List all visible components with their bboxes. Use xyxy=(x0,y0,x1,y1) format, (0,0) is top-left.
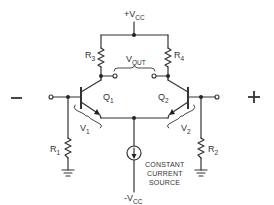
svg-text:CURRENT: CURRENT xyxy=(147,170,183,177)
vout-terminal-left xyxy=(113,74,117,78)
input-terminal-right xyxy=(215,95,219,99)
svg-text:R3: R3 xyxy=(85,50,96,62)
vcc-top-main: +V xyxy=(124,9,135,19)
v1-annotation: V1 xyxy=(74,105,101,135)
resistor-r4: R4 xyxy=(165,35,185,78)
svg-text:V1: V1 xyxy=(80,123,90,135)
svg-text:VOUT: VOUT xyxy=(126,54,146,66)
constant-current-source: CONSTANT CURRENT SOURCE xyxy=(127,118,185,192)
arrow-down-icon xyxy=(132,154,137,159)
svg-text:SOURCE: SOURCE xyxy=(149,179,180,186)
resistor-r2: R2 xyxy=(195,138,219,176)
differential-amplifier-schematic: +VCC R3 R4 VOUT Q1 xyxy=(0,0,274,205)
output-terminals: VOUT xyxy=(99,54,170,78)
vcc-top-sub: CC xyxy=(135,14,145,21)
inverting-input xyxy=(11,95,81,138)
svg-text:Q1: Q1 xyxy=(103,92,114,104)
junction-dot xyxy=(132,33,136,37)
svg-text:-VCC: -VCC xyxy=(124,193,143,205)
svg-text:V2: V2 xyxy=(181,123,191,135)
v2-annotation: V2 xyxy=(168,105,195,135)
svg-text:CONSTANT: CONSTANT xyxy=(145,161,185,168)
transistor-q2: Q2 xyxy=(158,77,188,118)
transistor-q1: Q1 xyxy=(81,77,114,118)
svg-text:R4: R4 xyxy=(174,50,185,62)
svg-text:R1: R1 xyxy=(50,144,61,156)
positive-supply: +VCC xyxy=(124,9,145,35)
resistor-r1: R1 xyxy=(50,138,74,176)
negative-supply: -VCC xyxy=(124,193,143,205)
svg-text:R2: R2 xyxy=(208,144,219,156)
vout-terminal-right xyxy=(152,74,156,78)
svg-text:Q2: Q2 xyxy=(158,92,169,104)
noninverting-input xyxy=(188,91,260,138)
svg-text:+VCC: +VCC xyxy=(124,9,145,21)
resistor-r3: R3 xyxy=(85,35,104,78)
